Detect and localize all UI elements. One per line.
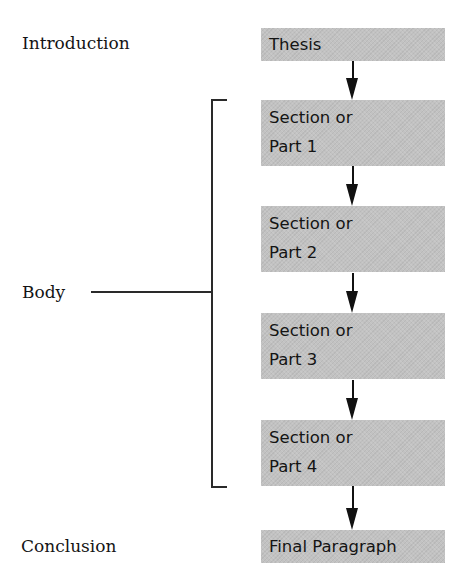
section-part-2-line1: Section or [269,209,445,238]
arrow-down-icon [346,273,359,313]
section-part-2-line2: Part 2 [269,238,445,267]
section-part-4-line1: Section or [269,423,445,452]
arrow-down-icon [346,61,359,100]
section-part-3-line2: Part 3 [269,345,445,374]
introduction-label: Introduction [22,33,130,53]
body-bracket-top [211,99,227,101]
thesis-box: Thesis [261,28,445,61]
section-part-1-box: Section or Part 1 [261,100,445,166]
body-label: Body [22,282,65,302]
arrow-down-icon [346,380,359,420]
section-part-2-box: Section or Part 2 [261,206,445,272]
section-part-4-box: Section or Part 4 [261,420,445,486]
body-connector-line [91,291,212,293]
section-part-3-line1: Section or [269,316,445,345]
section-part-1-line1: Section or [269,103,445,132]
section-part-3-box: Section or Part 3 [261,313,445,379]
arrow-down-icon [346,166,359,206]
final-paragraph-box: Final Paragraph [261,530,445,563]
essay-structure-diagram: Introduction Body Conclusion Thesis Sect… [0,0,463,585]
final-paragraph-text: Final Paragraph [269,530,445,563]
body-bracket-bottom [211,486,227,488]
section-part-1-line2: Part 1 [269,132,445,161]
thesis-text: Thesis [269,28,445,61]
conclusion-label: Conclusion [21,536,116,556]
arrow-down-icon [346,486,359,530]
section-part-4-line2: Part 4 [269,452,445,481]
body-bracket-spine [211,99,213,487]
